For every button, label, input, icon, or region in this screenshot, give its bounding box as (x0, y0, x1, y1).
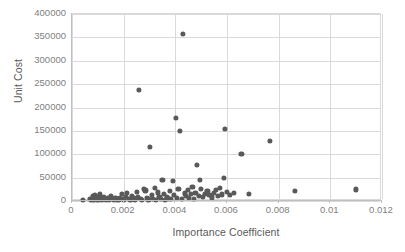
gridline-vertical (330, 14, 331, 199)
y-axis-tick-label: 350000 (4, 31, 66, 41)
x-axis-tick-mark (226, 200, 227, 203)
data-point (267, 138, 272, 143)
y-axis-tick-label: 150000 (4, 125, 66, 135)
x-axis-tick-mark (174, 200, 175, 203)
x-axis-tick-mark (278, 200, 279, 203)
data-point (292, 189, 297, 194)
y-axis-line (71, 13, 72, 201)
x-axis-tick-label: 0.004 (162, 205, 186, 215)
data-point (143, 188, 148, 193)
data-point (173, 116, 178, 121)
data-point (221, 176, 226, 181)
gridline-horizontal (72, 37, 380, 38)
data-point (147, 144, 152, 149)
x-axis-tick-label: 0 (68, 205, 73, 215)
gridline-horizontal (72, 84, 380, 85)
y-axis-tick-label: 100000 (4, 148, 66, 158)
data-point (160, 177, 165, 182)
gridline-vertical (227, 14, 228, 199)
x-axis-tick-mark (381, 200, 382, 203)
gridline-horizontal (72, 61, 380, 62)
gridline-vertical (175, 14, 176, 199)
x-axis-tick-label: 0.012 (369, 205, 393, 215)
x-axis-tick-mark (123, 200, 124, 203)
x-axis-title: Importance Coefficient (71, 226, 381, 238)
y-axis-tick-label: 200000 (4, 102, 66, 112)
gridline-vertical (124, 14, 125, 199)
data-point (180, 31, 185, 36)
y-axis-tick-label: 250000 (4, 78, 66, 88)
y-axis-tick-label: 0 (4, 195, 66, 205)
data-point (197, 177, 202, 182)
y-axis-tick-label: 300000 (4, 55, 66, 65)
gridline-vertical (382, 14, 383, 199)
y-axis-tick-label: 50000 (4, 172, 66, 182)
y-axis-tick-labels: 0500001000001500002000002500003000003500… (0, 0, 66, 252)
x-axis-tick-label: 0.01 (320, 205, 339, 215)
y-axis-tick-label: 400000 (4, 8, 66, 18)
x-axis-tick-mark (71, 200, 72, 203)
data-point (177, 129, 182, 134)
data-point (217, 186, 222, 191)
plot-area (71, 13, 381, 200)
x-axis-tick-label: 0.008 (266, 205, 290, 215)
gridline-vertical (279, 14, 280, 199)
gridline-horizontal (72, 108, 380, 109)
x-axis-tick-label: 0.002 (111, 205, 135, 215)
data-point (232, 191, 237, 196)
data-point (239, 151, 244, 156)
x-axis-tick-mark (329, 200, 330, 203)
data-point (353, 187, 358, 192)
gridline-vertical (72, 14, 73, 199)
data-point (176, 187, 181, 192)
gridline-horizontal (72, 14, 380, 15)
data-point (137, 88, 142, 93)
data-point (199, 186, 204, 191)
data-point (134, 189, 139, 194)
gridline-horizontal (72, 154, 380, 155)
x-axis-tick-label: 0.006 (214, 205, 238, 215)
data-point (194, 162, 199, 167)
scatter-chart: Unit Cost 050000100000150000200000250000… (0, 0, 405, 252)
data-point (246, 191, 251, 196)
